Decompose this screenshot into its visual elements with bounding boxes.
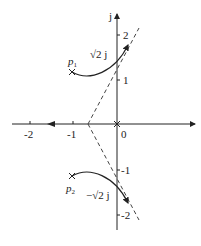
y-tick-neg2: -2 [121,210,130,221]
y-tick-neg1: -1 [121,165,130,176]
asymptote-upper [88,28,139,124]
y-tick-2: 2 [123,30,129,41]
x-tick-0: 0 [121,129,127,140]
pole-p2-x-icon [69,173,75,179]
x-tick-neg2: -2 [24,129,33,140]
real-axis-locus-arrow [47,121,55,127]
root-locus-plot [0,0,201,246]
lower-crossing-label: −√2 j [86,190,110,201]
pole-p1-x-icon [69,69,75,75]
imag-axis-label: j [109,11,112,22]
upper-crossing-label: √2 j [90,49,107,60]
y-tick-1: 1 [123,75,129,86]
pole-p1-label: p1 [68,56,77,69]
x-tick-neg1: -1 [67,129,76,140]
asymptote-lower [88,124,139,220]
pole-p2-label: p2 [66,183,75,196]
